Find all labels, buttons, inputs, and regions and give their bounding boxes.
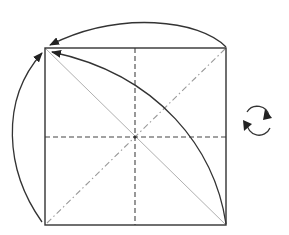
center-point xyxy=(133,135,136,138)
origami-fold-diagram xyxy=(0,0,289,235)
curved-fold-arrow xyxy=(52,52,226,224)
arrow-bottom-left-to-top-left xyxy=(12,53,42,222)
rotate-icon xyxy=(243,106,272,135)
arrow-top-right-to-top-left xyxy=(50,23,226,47)
